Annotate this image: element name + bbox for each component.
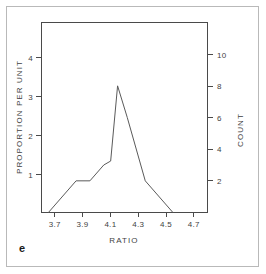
left-tick-label-1: 1 — [28, 171, 33, 180]
right-tick-label-6: 6 — [217, 114, 222, 123]
right-tick-label-10: 10 — [217, 51, 227, 60]
x-tick-label-47: 4.7 — [188, 220, 200, 229]
x-tick-label-37: 3.7 — [49, 220, 61, 229]
right-tick-label-8: 8 — [217, 82, 222, 91]
frequency-polygon-line — [48, 86, 173, 213]
right-tick-label-2: 2 — [217, 177, 222, 186]
left-axis-ticks — [36, 58, 41, 175]
x-axis-title: RATIO — [109, 236, 138, 245]
left-axis-tick-labels: 1 2 3 4 — [28, 54, 33, 180]
left-tick-label-3: 3 — [28, 93, 33, 102]
right-tick-label-4: 4 — [217, 145, 222, 154]
right-axis-ticks — [208, 55, 213, 181]
x-axis-tick-labels: 3.7 3.9 4.1 4.3 4.5 4.7 — [49, 220, 200, 229]
x-tick-label-41: 4.1 — [104, 220, 116, 229]
left-tick-label-4: 4 — [28, 54, 33, 63]
left-tick-label-2: 2 — [28, 132, 33, 141]
right-axis-tick-labels: 2 4 6 8 10 — [217, 51, 227, 186]
x-tick-label-43: 4.3 — [132, 220, 144, 229]
plot-frame — [42, 23, 208, 213]
x-tick-label-39: 3.9 — [77, 220, 89, 229]
y2-axis-title: COUNT — [236, 113, 245, 147]
chart-canvas: 1 2 3 4 2 4 6 8 10 — [0, 0, 266, 274]
x-tick-label-45: 4.5 — [160, 220, 172, 229]
y-axis-title: PROPORTION PER UNIT — [15, 60, 24, 174]
panel-letter: e — [19, 242, 25, 254]
figure-panel: 1 2 3 4 2 4 6 8 10 — [0, 0, 266, 274]
